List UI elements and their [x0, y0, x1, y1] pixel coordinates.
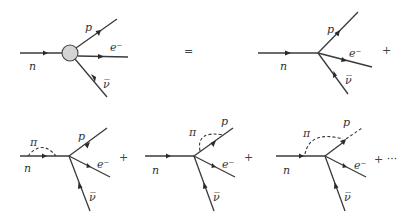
label-antineutrino: ν̅	[344, 191, 351, 204]
plus-sign: +	[119, 151, 128, 164]
label-neutron: n	[24, 162, 31, 175]
feynman-diagram-canvas: n p e⁻ ν̅ = n p e⁻ ν̅ + π n p e⁻ ν̅	[0, 0, 411, 217]
electron-arrow	[98, 54, 104, 59]
electron-arrow	[341, 57, 347, 62]
label-antineutrino: ν̅	[213, 191, 220, 204]
neutron-arrow	[42, 154, 47, 159]
proton-line	[69, 128, 107, 156]
diagram-pion-exchange: π n p e⁻ ν̅	[276, 116, 367, 211]
label-proton: p	[78, 130, 85, 143]
label-proton: p	[85, 21, 92, 34]
label-antineutrino: ν̅	[103, 78, 110, 91]
proton-line-dashed	[346, 128, 362, 139]
label-electron: e⁻	[110, 41, 123, 54]
label-proton: p	[221, 115, 228, 128]
diagram-pion-on-proton: π n p e⁻ ν̅	[145, 115, 235, 211]
label-neutron: n	[280, 60, 287, 73]
plus-sign: +	[382, 44, 391, 57]
equals-sign: =	[184, 45, 193, 58]
diagram-full-vertex: n p e⁻ ν̅	[20, 19, 128, 97]
diagram-tree-level: n p e⁻ ν̅	[258, 12, 372, 94]
diagram-pion-on-neutron: π n p e⁻ ν̅	[20, 128, 110, 211]
plus-sign: +	[244, 151, 253, 164]
label-neutron: n	[283, 164, 290, 177]
label-pion: π	[302, 127, 311, 140]
label-electron: e⁻	[222, 158, 235, 171]
effective-vertex-blob	[62, 45, 78, 61]
neutron-arrow	[299, 154, 304, 159]
plus-ellipsis: + ···	[374, 153, 397, 166]
antineutrino-arrow	[203, 182, 208, 189]
neutron-arrow	[43, 51, 48, 56]
label-proton: p	[343, 116, 350, 129]
antineutrino-arrow	[334, 182, 339, 189]
neutron-arrow	[285, 51, 291, 56]
label-neutron: n	[152, 164, 159, 177]
label-pion: π	[29, 136, 38, 149]
label-electron: e⁻	[349, 47, 362, 60]
label-neutron: n	[29, 60, 36, 73]
label-antineutrino: ν̅	[345, 74, 352, 87]
label-proton: p	[327, 23, 334, 36]
label-pion: π	[188, 126, 197, 139]
label-electron: e⁻	[354, 159, 367, 172]
label-electron: e⁻	[97, 158, 110, 171]
neutron-arrow	[166, 154, 171, 159]
proton-line	[325, 141, 345, 156]
pion-exchange-line	[305, 137, 343, 154]
label-antineutrino: ν̅	[89, 191, 96, 204]
